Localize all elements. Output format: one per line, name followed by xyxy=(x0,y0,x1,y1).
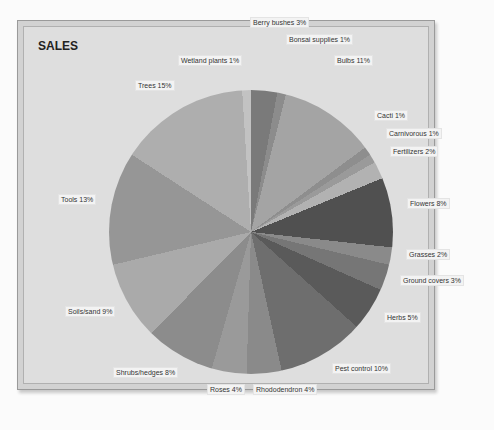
pie-chart xyxy=(109,90,393,374)
data-label: Bonsai supplies 1% xyxy=(286,34,353,45)
chart-frame: SALES xyxy=(17,20,435,390)
data-label: Carnivorous 1% xyxy=(386,128,442,139)
data-label: Bulbs 11% xyxy=(334,55,373,66)
data-label: Flowers 8% xyxy=(407,198,450,209)
data-label: Ground covers 3% xyxy=(400,275,464,286)
data-label: Grasses 2% xyxy=(406,249,450,260)
data-label: Soils/sand 9% xyxy=(65,306,115,317)
data-label: Cacti 1% xyxy=(374,110,408,121)
data-label: Fertilizers 2% xyxy=(390,146,438,157)
data-label: Wetland plants 1% xyxy=(178,55,242,66)
data-label: Berry bushes 3% xyxy=(250,17,309,28)
data-label: Tools 13% xyxy=(58,194,96,205)
data-label: Shrubs/hedges 8% xyxy=(113,367,178,378)
data-label: Rhododendron 4% xyxy=(253,384,317,395)
data-label: Roses 4% xyxy=(207,384,245,395)
chart-title: SALES xyxy=(38,39,78,53)
chart-area: SALES xyxy=(23,26,429,384)
data-label: Trees 15% xyxy=(135,80,175,91)
data-label: Herbs 5% xyxy=(384,312,421,323)
data-label: Pest control 10% xyxy=(332,363,391,374)
